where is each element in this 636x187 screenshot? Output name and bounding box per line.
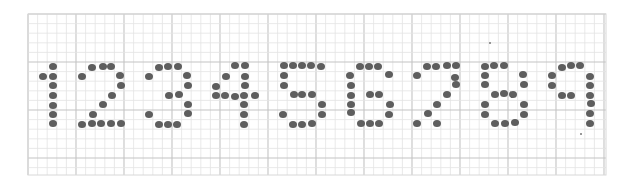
- dot: [501, 120, 509, 127]
- dot: [49, 111, 57, 118]
- dot: [145, 111, 153, 118]
- dot: [317, 63, 325, 70]
- dot: [155, 64, 163, 71]
- dot: [433, 120, 441, 127]
- dot: [241, 82, 249, 89]
- dot: [375, 120, 383, 127]
- dot: [240, 121, 248, 128]
- dot: [298, 91, 306, 98]
- graph-paper-grid: [0, 0, 636, 187]
- dot: [88, 64, 96, 71]
- dot: [500, 62, 508, 69]
- dot: [107, 63, 115, 70]
- dot: [386, 101, 394, 108]
- dot: [347, 109, 355, 116]
- dot: [241, 62, 249, 69]
- dot: [108, 92, 116, 99]
- dot: [481, 72, 489, 79]
- dot: [500, 90, 508, 97]
- dot: [184, 82, 192, 89]
- dot: [356, 63, 364, 70]
- dot: [385, 111, 393, 118]
- dot: [576, 62, 584, 69]
- dot: [347, 82, 355, 89]
- dot: [374, 63, 382, 70]
- dot: [184, 101, 192, 108]
- dot: [88, 120, 96, 127]
- dot: [443, 91, 451, 98]
- dot: [433, 101, 441, 108]
- dot: [567, 92, 575, 99]
- dot: [385, 71, 393, 78]
- dot: [347, 101, 355, 108]
- dot: [99, 63, 107, 70]
- dot: [346, 72, 354, 79]
- dot: [366, 91, 374, 98]
- dot: [443, 62, 451, 69]
- paper-speck: [489, 42, 491, 44]
- dot: [164, 63, 172, 70]
- dot: [511, 119, 519, 126]
- dot: [375, 91, 383, 98]
- dot: [49, 92, 57, 99]
- dot: [567, 62, 575, 69]
- dot: [481, 63, 489, 70]
- dot: [221, 92, 229, 99]
- dot: [451, 74, 459, 81]
- dot: [586, 110, 594, 117]
- dot: [548, 72, 556, 79]
- dot: [289, 62, 297, 69]
- dot: [490, 62, 498, 69]
- dot: [424, 110, 432, 117]
- dot: [145, 73, 153, 80]
- dot: [49, 120, 57, 127]
- dot: [212, 83, 220, 90]
- dot: [308, 120, 316, 127]
- dot: [481, 101, 489, 108]
- dot: [298, 62, 306, 69]
- dot: [423, 63, 431, 70]
- paper-speck: [580, 133, 582, 135]
- dot: [366, 120, 374, 127]
- dot: [240, 92, 248, 99]
- dot: [183, 72, 191, 79]
- dot: [175, 91, 183, 98]
- dot: [222, 73, 230, 80]
- dot: [520, 101, 528, 108]
- dot: [212, 92, 220, 99]
- dot: [308, 91, 316, 98]
- dot: [155, 121, 163, 128]
- dot: [78, 73, 86, 80]
- dot: [318, 101, 326, 108]
- dot: [586, 92, 594, 99]
- dot: [298, 121, 306, 128]
- dot: [231, 62, 239, 69]
- dot: [290, 91, 298, 98]
- dot: [240, 101, 248, 108]
- dot: [365, 63, 373, 70]
- dot: [165, 92, 173, 99]
- dot: [558, 92, 566, 99]
- dot: [49, 82, 57, 89]
- dot: [107, 120, 115, 127]
- dot: [231, 93, 239, 100]
- dot: [357, 120, 365, 127]
- dot: [174, 63, 182, 70]
- dot: [413, 72, 421, 79]
- dot: [117, 120, 125, 127]
- dot: [279, 111, 287, 118]
- dot: [117, 82, 125, 89]
- dot: [558, 64, 566, 71]
- dot: [481, 81, 489, 88]
- dot: [280, 82, 288, 89]
- dot: [184, 110, 192, 117]
- dot: [586, 120, 594, 127]
- dot: [452, 62, 460, 69]
- dot: [520, 81, 528, 88]
- dot: [49, 102, 57, 109]
- dot: [280, 72, 288, 79]
- dot: [452, 81, 460, 88]
- dot: [240, 111, 248, 118]
- dot: [318, 111, 326, 118]
- dot: [173, 121, 181, 128]
